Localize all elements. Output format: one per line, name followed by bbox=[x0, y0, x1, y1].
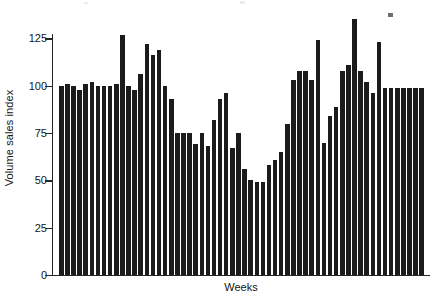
y-axis-line bbox=[52, 34, 53, 276]
bar bbox=[114, 84, 119, 275]
y-axis-tick-mark bbox=[45, 86, 53, 87]
bar bbox=[267, 165, 272, 275]
bar bbox=[120, 35, 125, 275]
bar bbox=[206, 146, 211, 275]
y-axis-tick-mark bbox=[45, 133, 53, 134]
bar bbox=[96, 86, 101, 275]
bar bbox=[285, 124, 290, 275]
y-axis-tick-mark bbox=[45, 275, 53, 276]
bar bbox=[193, 144, 198, 275]
bar bbox=[200, 133, 205, 275]
bar bbox=[255, 182, 260, 275]
bar bbox=[413, 88, 418, 275]
bar bbox=[175, 133, 180, 275]
bar bbox=[407, 88, 412, 275]
bar-chart-figure: Volume sales index 0255075100125 Weeks bbox=[0, 0, 436, 301]
bar bbox=[322, 143, 327, 276]
bar bbox=[132, 90, 137, 276]
bar bbox=[218, 99, 223, 275]
bar bbox=[71, 86, 76, 275]
bar bbox=[419, 88, 424, 275]
bar bbox=[395, 88, 400, 275]
bar bbox=[261, 182, 266, 275]
bar bbox=[273, 160, 278, 275]
scan-artifact-icon bbox=[240, 1, 245, 4]
scan-artifact-icon bbox=[84, 2, 88, 4]
bar bbox=[102, 86, 107, 275]
bar bbox=[242, 169, 247, 275]
bar bbox=[358, 71, 363, 275]
bar bbox=[230, 148, 235, 275]
bar bbox=[309, 80, 314, 275]
scan-artifact-icon bbox=[388, 13, 393, 17]
bars-container bbox=[59, 10, 427, 275]
y-axis-tick-mark bbox=[45, 180, 53, 181]
bar bbox=[401, 88, 406, 275]
bar bbox=[316, 40, 321, 275]
y-axis-title-text: Volume sales index bbox=[3, 89, 15, 186]
bar bbox=[59, 86, 64, 275]
bar bbox=[352, 19, 357, 275]
bar bbox=[291, 80, 296, 275]
bar bbox=[224, 93, 229, 275]
bar bbox=[340, 71, 345, 275]
bar bbox=[297, 71, 302, 275]
bar bbox=[389, 88, 394, 275]
bar bbox=[334, 107, 339, 275]
bar bbox=[83, 84, 88, 275]
y-axis-tick-mark bbox=[45, 38, 53, 39]
bar bbox=[151, 55, 156, 275]
bar bbox=[236, 133, 241, 275]
bar bbox=[65, 84, 70, 275]
bar bbox=[169, 99, 174, 275]
bar bbox=[187, 133, 192, 275]
x-axis-line bbox=[52, 275, 430, 276]
bar bbox=[77, 90, 82, 276]
bar bbox=[157, 50, 162, 275]
bar bbox=[248, 180, 253, 275]
x-axis-title: Weeks bbox=[52, 281, 430, 293]
bar bbox=[303, 71, 308, 275]
bar bbox=[377, 42, 382, 275]
bar bbox=[212, 120, 217, 275]
bar bbox=[138, 74, 143, 275]
y-axis-title: Volume sales index bbox=[0, 0, 18, 275]
y-axis-tick-labels: 0255075100125 bbox=[18, 0, 50, 301]
bar bbox=[108, 86, 113, 275]
bar bbox=[181, 133, 186, 275]
bar bbox=[346, 65, 351, 275]
bar bbox=[328, 116, 333, 275]
bar bbox=[279, 152, 284, 275]
bar bbox=[90, 82, 95, 275]
plot-area bbox=[59, 10, 427, 275]
bar bbox=[163, 86, 168, 275]
bar bbox=[383, 88, 388, 275]
bar bbox=[126, 86, 131, 275]
bar bbox=[364, 82, 369, 275]
y-axis-tick-mark bbox=[45, 228, 53, 229]
bar bbox=[371, 93, 376, 275]
bar bbox=[145, 44, 150, 275]
